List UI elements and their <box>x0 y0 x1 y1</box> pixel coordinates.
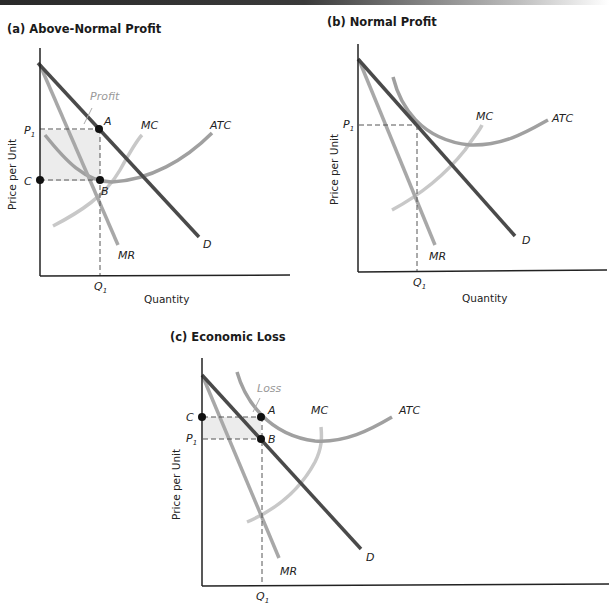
y-axis-label: Price per Unit <box>6 139 18 210</box>
point-a-label: A <box>103 115 112 128</box>
q1-tick-label: Q1 <box>94 280 107 295</box>
figure-canvas: Profit A B C P1 Q1 MC ATC MR D Quantity … <box>0 0 609 604</box>
panel-b-chart: P1 Q1 MC ATC MR D Quantity Price per Uni… <box>328 44 607 304</box>
mc-label: MC <box>311 404 328 417</box>
q1-tick-label: Q1 <box>413 276 426 291</box>
x-axis-label: Quantity <box>462 292 507 304</box>
d-label: D <box>203 238 211 251</box>
p1-tick-label: P1 <box>24 124 35 139</box>
point-c <box>198 413 206 421</box>
x-axis <box>40 275 290 276</box>
y-axis-label: Price per Unit <box>328 134 340 205</box>
mr-label: MR <box>280 565 297 578</box>
profit-label: Profit <box>90 90 120 103</box>
mr-label: MR <box>118 249 135 262</box>
point-b <box>96 176 104 184</box>
atc-label: ATC <box>209 119 231 132</box>
x-axis <box>202 584 609 586</box>
d-label: D <box>366 551 374 564</box>
mc-label: MC <box>476 110 493 123</box>
point-c <box>36 176 44 184</box>
p1-tick-label: P1 <box>343 118 354 133</box>
panel-a-chart: Profit A B C P1 Q1 MC ATC MR D Quantity … <box>6 48 290 305</box>
c-tick-label: C <box>24 175 32 188</box>
point-a-label: A <box>267 404 276 417</box>
x-axis <box>358 270 607 272</box>
atc-label: ATC <box>551 112 573 125</box>
d-label: D <box>522 234 530 247</box>
atc-curve <box>393 77 548 145</box>
demand-curve <box>202 375 361 549</box>
point-a <box>95 125 103 133</box>
point-b <box>257 435 265 443</box>
loss-label: Loss <box>257 382 282 395</box>
mr-label: MR <box>429 250 446 263</box>
demand-curve <box>358 59 515 236</box>
p1-tick-label: P1 <box>186 432 197 447</box>
q1-tick-label: Q1 <box>256 590 269 604</box>
point-b-label: B <box>268 433 276 446</box>
atc-label: ATC <box>398 404 420 417</box>
c-tick-label: C <box>186 411 194 424</box>
x-axis-label: Quantity <box>144 293 189 305</box>
mc-label: MC <box>141 119 158 132</box>
point-b-label: B <box>101 185 109 198</box>
y-axis-label: Price per Unit <box>170 449 182 520</box>
point-a <box>257 413 265 421</box>
panel-c-chart: Loss A B C P1 Q1 MC ATC MR D Price per U… <box>170 358 609 604</box>
